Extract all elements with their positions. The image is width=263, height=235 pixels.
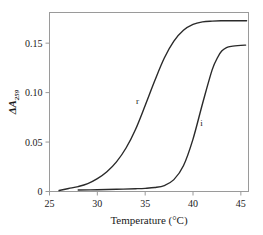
- x-tick-label: 35: [140, 198, 150, 209]
- y-tick-labels: 00.050.100.15: [25, 38, 43, 197]
- y-axis-title-subscript: 259: [13, 89, 21, 101]
- chart-container: 00.050.100.15 2530354045 ΔA259 Temperatu…: [0, 0, 263, 235]
- y-tick-label: 0.15: [25, 38, 43, 49]
- x-tick-label: 30: [92, 198, 102, 209]
- y-axis-ticks: [46, 43, 50, 191]
- y-axis-title: ΔA259: [6, 89, 21, 115]
- x-tick-label: 40: [188, 198, 198, 209]
- data-curves: [59, 21, 247, 191]
- x-axis-title: Temperature (°C): [110, 214, 188, 227]
- svg-text:ΔA259: ΔA259: [6, 89, 21, 115]
- curve-i: [78, 45, 245, 190]
- curve-label-i: i: [200, 118, 203, 128]
- y-axis-title-text: ΔA: [6, 100, 18, 115]
- y-tick-label: 0: [38, 186, 43, 197]
- x-tick-labels: 2530354045: [45, 198, 246, 209]
- y-tick-label: 0.05: [25, 137, 43, 148]
- x-tick-label: 25: [45, 198, 55, 209]
- y-tick-label: 0.10: [25, 87, 43, 98]
- x-axis-ticks: [50, 192, 241, 196]
- curve-label-r: r: [136, 96, 139, 106]
- plot-frame: [50, 13, 249, 192]
- melting-curve-chart: 00.050.100.15 2530354045 ΔA259 Temperatu…: [0, 0, 263, 235]
- x-tick-label: 45: [236, 198, 246, 209]
- curve-r: [59, 21, 247, 191]
